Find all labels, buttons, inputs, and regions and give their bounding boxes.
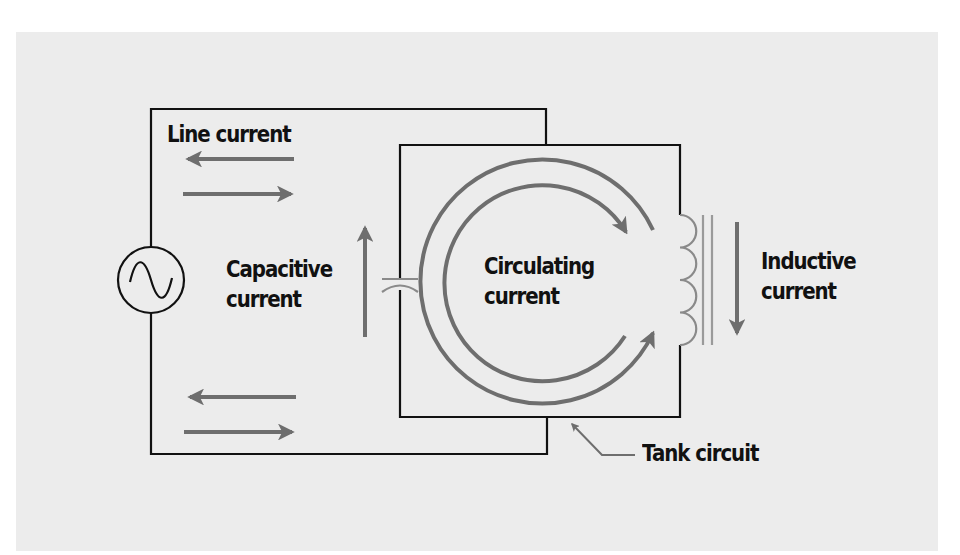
inductive-current-label: Inductive current — [761, 246, 856, 306]
circulating-current-label: Circulating current — [484, 251, 594, 311]
capacitive-current-label: Capacitive current — [226, 254, 332, 314]
line-current-arrows-bottom — [184, 397, 296, 432]
tank-circuit-leader — [572, 424, 635, 455]
ac-source-icon — [118, 247, 184, 313]
line-current-label: Line current — [167, 119, 291, 149]
inductor-coil-icon — [680, 215, 696, 345]
inductor-core-icon — [703, 215, 712, 345]
tank-circuit-label: Tank circuit — [642, 438, 758, 468]
line-current-arrows-top — [183, 159, 294, 194]
diagram-canvas: Line current Capacitive current Circulat… — [0, 0, 960, 555]
